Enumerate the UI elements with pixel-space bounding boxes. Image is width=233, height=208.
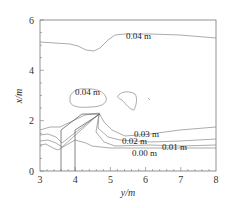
y-tick-6: 6 bbox=[29, 15, 34, 26]
contour-004-island-2 bbox=[118, 92, 137, 110]
y-tick-4: 4 bbox=[29, 65, 34, 76]
x-tick-7: 7 bbox=[178, 174, 183, 185]
contour-label-004-upper: 0.04 m bbox=[126, 31, 151, 41]
contour-004-speck bbox=[148, 98, 150, 100]
contour-003 bbox=[40, 113, 216, 136]
x-tick-8: 8 bbox=[214, 174, 219, 185]
contour-label-001: 0.01 m bbox=[162, 142, 187, 152]
x-axis-label: y/m bbox=[120, 187, 135, 198]
y-axis bbox=[40, 20, 44, 171]
y-axis-label: x/m bbox=[13, 89, 24, 104]
x-axis bbox=[47, 167, 209, 171]
x-tick-5: 5 bbox=[108, 174, 113, 185]
contour-chart: 0 2 4 6 3 4 5 6 7 8 y/m x/m 0.04 m 0.04 … bbox=[0, 0, 233, 208]
contour-label-004-island: 0.04 m bbox=[75, 87, 100, 97]
contour-label-002: 0.02 m bbox=[122, 136, 147, 146]
contour-lines bbox=[40, 34, 216, 150]
y-tick-2: 2 bbox=[29, 115, 34, 126]
x-tick-4: 4 bbox=[73, 174, 78, 185]
y-tick-0: 0 bbox=[29, 166, 34, 177]
x-tick-6: 6 bbox=[143, 174, 148, 185]
x-tick-3: 3 bbox=[38, 174, 43, 185]
contour-label-000: 0.00 m bbox=[132, 148, 157, 158]
